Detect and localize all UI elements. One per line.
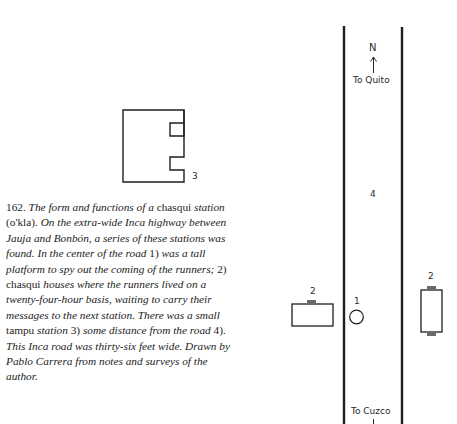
caption-text: The form and functions of a chasqui stat…	[6, 201, 230, 382]
tampu-label-3: 3	[192, 172, 198, 181]
caption-segment: The form and functions of a	[29, 201, 157, 213]
lookout-platform-1	[350, 310, 364, 324]
figure-number: 162.	[6, 201, 26, 213]
north-label: N	[369, 43, 376, 53]
figure-caption: 162. The form and functions of a chasqui…	[6, 200, 238, 385]
to-quito-label: To Quito	[353, 76, 390, 85]
north-arrow-icon	[371, 57, 377, 73]
chasqui-house-right	[421, 286, 442, 336]
door-icon	[427, 332, 436, 336]
caption-segment: chasqui	[157, 201, 192, 213]
caption-segment: 3)	[71, 324, 80, 336]
caption-segment: some distance from the road	[80, 324, 213, 336]
caption-segment: This Inca road was thirty-six feet wide.…	[6, 340, 230, 383]
caption-segment: (o'kla).	[6, 216, 41, 228]
road-label-4: 4	[370, 190, 376, 199]
tampu-station-3	[123, 110, 184, 182]
caption-segment: station	[191, 201, 225, 213]
platform-label-1: 1	[354, 297, 360, 306]
house-right-label-2: 2	[428, 272, 434, 281]
chasqui-house-left	[292, 300, 333, 326]
caption-segment: 1)	[149, 247, 158, 259]
to-cuzco-label: To Cuzco	[351, 407, 391, 416]
caption-segment: station	[34, 324, 70, 336]
house-left-label-2: 2	[310, 287, 316, 296]
door-icon	[427, 286, 436, 290]
caption-segment: tampu	[6, 324, 34, 336]
caption-segment: 4).	[214, 324, 226, 336]
door-icon	[307, 300, 316, 304]
